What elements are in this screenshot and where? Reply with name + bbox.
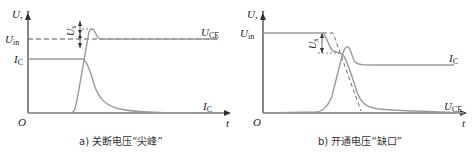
time-axis-label: t — [462, 118, 465, 129]
label-uce: UCE — [201, 27, 219, 40]
axis-label-ui: U, I — [247, 9, 264, 20]
origin-label: O — [18, 117, 26, 128]
label-ic-left: IC — [14, 54, 23, 67]
axis-label-ui: U, I — [12, 9, 29, 20]
label-us: Us — [66, 26, 78, 36]
label-uce: UCE — [444, 101, 462, 114]
panel-turn-on-notch: U, I Uin Us IC UCE O t b) 开通电压“缺口” — [236, 0, 473, 157]
label-us: Us — [308, 39, 320, 49]
caption-a: a) 关断电压“尖峰” — [79, 133, 163, 148]
time-axis-label: t — [226, 118, 229, 129]
label-ic-right: IC — [203, 101, 212, 114]
label-uin: Uin — [240, 28, 254, 41]
label-ic: IC — [449, 53, 458, 66]
label-uin: Uin — [5, 34, 19, 47]
panel-turn-off-spike: U, I Uin IC Us UCE IC O t a) 关断电压“尖峰” — [0, 0, 237, 157]
caption-b: b) 开通电压“缺口” — [318, 133, 402, 148]
origin-label: O — [253, 117, 261, 128]
